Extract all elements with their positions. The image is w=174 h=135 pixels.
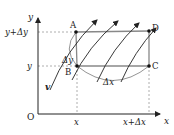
y-dy-tick-label: y+Δy — [4, 27, 28, 37]
velocity-label: v — [45, 82, 51, 92]
velocity-field-diagram: y x O y+Δy y x x+Δx A B C D Δy Δx v — [0, 0, 174, 135]
x-tick-label: x — [74, 117, 79, 127]
rectangle-abcd — [76, 31, 149, 66]
delta-x-label: Δx — [102, 77, 114, 87]
x-axis-label: x — [164, 116, 169, 126]
delta-y-label: Δy — [61, 55, 73, 65]
point-c-label: C — [152, 61, 159, 71]
point-d-label: D — [152, 23, 159, 33]
x-dx-tick-label: x+Δx — [123, 117, 146, 127]
origin-label: O — [27, 112, 34, 122]
point-b-label: B — [65, 67, 71, 77]
y-axis-label: y — [27, 12, 34, 22]
y-tick-label: y — [26, 61, 32, 71]
dashed-guides — [38, 32, 149, 114]
point-a-label: A — [69, 20, 77, 30]
